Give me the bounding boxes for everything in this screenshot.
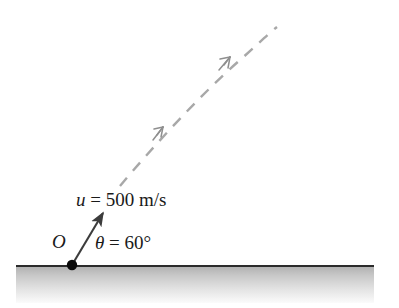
- angle-value: 60°: [125, 232, 152, 253]
- projectile-diagram: u = 500 m/s θ = 60° O: [0, 0, 399, 308]
- trajectory-arrowhead-upper: [219, 57, 230, 70]
- diagram-canvas: [0, 0, 399, 308]
- speed-symbol: u: [76, 189, 86, 210]
- theta-symbol: θ: [95, 232, 104, 253]
- ground-fill: [16, 267, 374, 303]
- trajectory-path: [120, 27, 277, 186]
- origin-dot: [67, 260, 77, 270]
- speed-equals-sign: =: [90, 189, 101, 210]
- angle-label: θ = 60°: [95, 233, 151, 252]
- angle-equals-sign: =: [109, 232, 120, 253]
- speed-value: 500 m/s: [106, 189, 167, 210]
- speed-label: u = 500 m/s: [76, 190, 166, 209]
- origin-label: O: [52, 232, 66, 251]
